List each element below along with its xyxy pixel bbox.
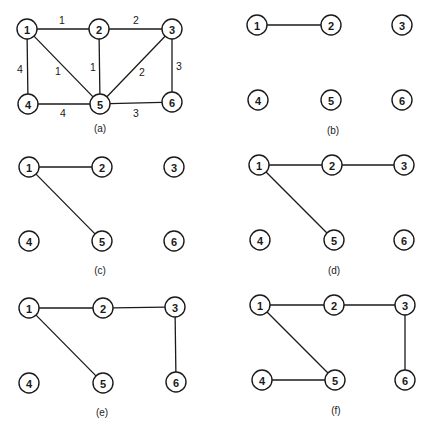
node-2: 2 [321,15,341,35]
node-6: 6 [166,372,186,392]
node-label: 2 [96,24,102,36]
node-label: 3 [172,302,178,314]
node-1: 1 [249,155,269,175]
node-label: 4 [25,99,32,111]
node-6: 6 [395,370,415,390]
node-2: 2 [324,295,344,315]
edge-2-5 [99,39,100,94]
node-label: 2 [328,20,334,32]
node-label: 1 [26,303,32,315]
node-6: 6 [392,90,412,110]
node-6: 6 [162,92,182,112]
node-1: 1 [19,157,39,177]
node-label: 6 [171,236,177,248]
edge-1-4 [27,39,28,94]
node-3: 3 [395,295,415,315]
edge-weight-2-3: 2 [133,14,139,26]
node-label: 4 [26,378,33,390]
node-3: 3 [394,155,414,175]
node-label: 3 [399,20,405,32]
background [0,0,428,428]
node-label: 4 [257,235,264,247]
node-label: 1 [256,160,262,172]
node-label: 5 [332,375,338,387]
edge-weight-2-5: 1 [90,61,96,73]
node-label: 4 [26,236,33,248]
node-label: 6 [169,97,175,109]
node-4: 4 [250,230,270,250]
panel-caption: (e) [96,407,108,418]
edge-weight-3-5: 2 [139,66,145,78]
node-label: 3 [401,160,407,172]
node-3: 3 [164,157,184,177]
panel-caption: (f) [331,405,340,416]
edge-weight-3-6: 3 [176,60,182,72]
panel-caption: (b) [327,125,339,136]
node-3: 3 [162,19,182,39]
node-3: 3 [165,297,185,317]
node-label: 2 [100,303,106,315]
node-label: 1 [26,162,32,174]
node-4: 4 [252,370,272,390]
node-label: 5 [100,378,106,390]
node-label: 6 [401,235,407,247]
node-1: 1 [250,295,270,315]
node-label: 5 [331,235,337,247]
edge-3-6 [175,317,176,372]
panel-caption: (a) [94,123,106,134]
node-2: 2 [93,298,113,318]
node-5: 5 [90,94,110,114]
node-1: 1 [247,15,267,35]
node-2: 2 [322,155,342,175]
node-5: 5 [324,230,344,250]
node-label: 5 [328,95,334,107]
panel-caption: (d) [328,265,340,276]
node-label: 3 [169,24,175,36]
node-label: 1 [254,20,260,32]
node-label: 5 [99,236,105,248]
node-label: 6 [173,377,179,389]
node-5: 5 [92,231,112,251]
node-6: 6 [164,231,184,251]
node-4: 4 [18,94,38,114]
edge-weight-5-6: 3 [133,107,139,119]
node-label: 1 [257,300,263,312]
node-1: 1 [17,19,37,39]
edge-2-3 [113,307,165,308]
graph-figure: 124112343123456(a)123456(b)123456(c)1234… [0,0,428,428]
node-6: 6 [394,230,414,250]
edge-weight-1-5: 1 [55,65,61,77]
node-5: 5 [321,90,341,110]
node-label: 2 [329,160,335,172]
node-4: 4 [19,231,39,251]
node-label: 4 [259,375,266,387]
node-2: 2 [92,157,112,177]
node-label: 3 [402,300,408,312]
node-label: 3 [171,162,177,174]
edge-weight-4-5: 4 [60,107,66,119]
node-label: 5 [97,99,103,111]
node-label: 2 [99,162,105,174]
node-label: 6 [402,375,408,387]
figure-canvas: 124112343123456(a)123456(b)123456(c)1234… [0,0,428,428]
node-5: 5 [93,373,113,393]
panel-caption: (c) [94,265,106,276]
node-2: 2 [89,19,109,39]
edge-weight-1-2: 1 [59,14,65,26]
node-3: 3 [392,15,412,35]
node-label: 4 [255,95,262,107]
node-label: 2 [331,300,337,312]
node-1: 1 [19,298,39,318]
node-4: 4 [248,90,268,110]
edge-weight-1-4: 4 [17,63,23,75]
node-4: 4 [19,373,39,393]
node-5: 5 [325,370,345,390]
node-label: 1 [24,24,30,36]
node-label: 6 [399,95,405,107]
